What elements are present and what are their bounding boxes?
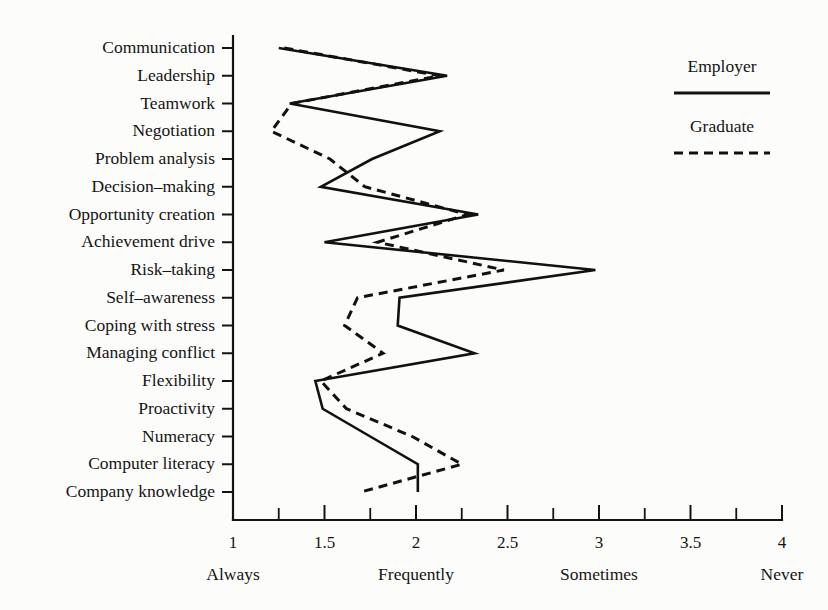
legend-label-employer: Employer	[687, 56, 756, 76]
x-tick-label: 2	[412, 533, 421, 552]
category-label: Communication	[102, 37, 215, 57]
x-tick-label: 3.5	[680, 533, 701, 552]
series-line-graduate	[271, 48, 503, 492]
category-label: Proactivity	[138, 398, 215, 418]
category-label: Negotiation	[132, 120, 215, 140]
x-axis-major-ticks	[233, 505, 782, 520]
skills-comparison-chart: CommunicationLeadershipTeamworkNegotiati…	[0, 0, 828, 610]
scale-word-label: Sometimes	[560, 564, 638, 584]
category-label: Numeracy	[142, 426, 215, 446]
x-tick-label: 3	[595, 533, 604, 552]
category-label: Flexibility	[142, 370, 215, 390]
category-label: Coping with stress	[85, 315, 215, 335]
scale-word-label: Never	[761, 564, 804, 584]
category-label: Self–awareness	[106, 287, 215, 307]
category-label: Achievement drive	[81, 231, 215, 251]
category-label: Leadership	[137, 65, 215, 85]
category-label: Managing conflict	[86, 342, 215, 362]
x-tick-label: 4	[778, 533, 787, 552]
x-tick-label: 1.5	[314, 533, 335, 552]
category-label: Teamwork	[140, 93, 215, 113]
series-line-employer	[279, 48, 596, 492]
category-label: Problem analysis	[95, 148, 215, 168]
chart-legend: EmployerGraduate	[674, 56, 770, 153]
scale-word-label: Frequently	[378, 564, 454, 584]
legend-label-graduate: Graduate	[690, 116, 754, 136]
category-axis-labels: CommunicationLeadershipTeamworkNegotiati…	[66, 37, 215, 501]
x-axis-scale-words: AlwaysFrequentlySometimesNever	[206, 564, 803, 584]
chart-canvas: CommunicationLeadershipTeamworkNegotiati…	[0, 0, 828, 610]
category-label: Company knowledge	[66, 481, 215, 501]
category-tick-marks	[222, 48, 233, 492]
category-label: Decision–making	[92, 176, 216, 196]
x-axis-tick-labels: 11.522.533.54	[229, 533, 787, 552]
scale-word-label: Always	[206, 564, 260, 584]
x-tick-label: 2.5	[497, 533, 518, 552]
category-label: Opportunity creation	[69, 204, 216, 224]
x-tick-label: 1	[229, 533, 238, 552]
data-series-group	[271, 48, 595, 492]
category-label: Risk–taking	[130, 259, 215, 279]
category-label: Computer literacy	[88, 453, 215, 473]
